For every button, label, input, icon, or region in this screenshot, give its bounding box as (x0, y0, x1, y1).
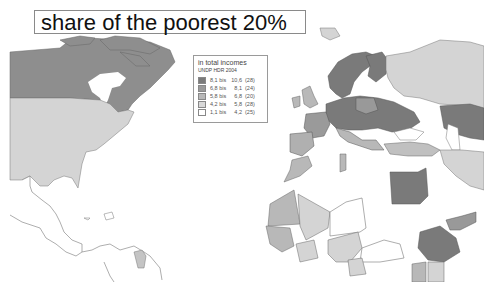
region-usa (10, 98, 134, 188)
region-greenland-east (320, 28, 340, 40)
region-italy-balkans (336, 128, 384, 150)
legend-range-high: 8,1 (228, 85, 242, 91)
region-iberia (290, 132, 314, 156)
region-senegal-guinea (266, 226, 294, 252)
region-mexico (10, 176, 82, 256)
legend-range-low: 1,1 bis (210, 109, 228, 115)
legend-title: in total incomes (198, 59, 263, 66)
region-uk (302, 86, 318, 108)
map-title: share of the poorest 20% (34, 10, 306, 34)
legend-row: 5,8 bis 6,8 (20) (198, 92, 263, 100)
legend-range-low: 8,1 bis (210, 77, 228, 83)
legend-count: (28) (245, 77, 255, 83)
legend-swatch (198, 85, 206, 92)
region-nigeria (328, 232, 362, 262)
region-mali (298, 194, 330, 240)
region-caribbean (84, 212, 114, 220)
legend-range-low: 6,8 bis (210, 85, 228, 91)
legend-swatch (198, 109, 206, 116)
region-egypt (390, 168, 428, 204)
region-tunisia (340, 154, 346, 172)
legend-count: (20) (245, 93, 255, 99)
region-car (360, 240, 404, 262)
legend-count: (24) (245, 85, 255, 91)
legend-range-low: 4,2 bis (210, 101, 228, 107)
region-finland (366, 52, 388, 82)
region-caspian (446, 124, 460, 150)
region-uganda (412, 262, 426, 282)
region-russia (386, 40, 484, 110)
legend-source: UNDP HDR 2004 (198, 67, 263, 73)
legend-row: 6,8 bis 8,1 (24) (198, 84, 263, 92)
region-south-america (82, 244, 162, 282)
region-ghana (296, 240, 318, 262)
legend-row: 8,1 bis 10,6 (28) (198, 76, 263, 84)
region-morocco (284, 156, 312, 182)
legend-count: (25) (245, 109, 255, 115)
legend-range-high: 4,2 (228, 109, 242, 115)
region-mauritania (268, 190, 300, 226)
legend-count: (28) (245, 101, 255, 107)
region-ethiopia (418, 226, 460, 262)
region-niger (330, 198, 366, 236)
legend-row: 4,2 bis 5,8 (28) (198, 100, 263, 108)
legend-range-high: 5,8 (228, 101, 242, 107)
world-choropleth-map (0, 0, 484, 282)
region-turkey (384, 142, 440, 156)
legend-swatch (198, 77, 206, 84)
region-yemen (446, 212, 476, 230)
region-kenya (428, 262, 444, 282)
region-ireland (292, 96, 300, 108)
legend-swatch (198, 101, 206, 108)
legend: in total incomes UNDP HDR 2004 8,1 bis 1… (193, 55, 268, 123)
legend-range-low: 5,8 bis (210, 93, 228, 99)
legend-range-high: 10,6 (228, 77, 242, 83)
legend-row: 1,1 bis 4,2 (25) (198, 108, 263, 116)
legend-range-high: 6,8 (228, 93, 242, 99)
region-iran (440, 150, 484, 190)
legend-swatch (198, 93, 206, 100)
